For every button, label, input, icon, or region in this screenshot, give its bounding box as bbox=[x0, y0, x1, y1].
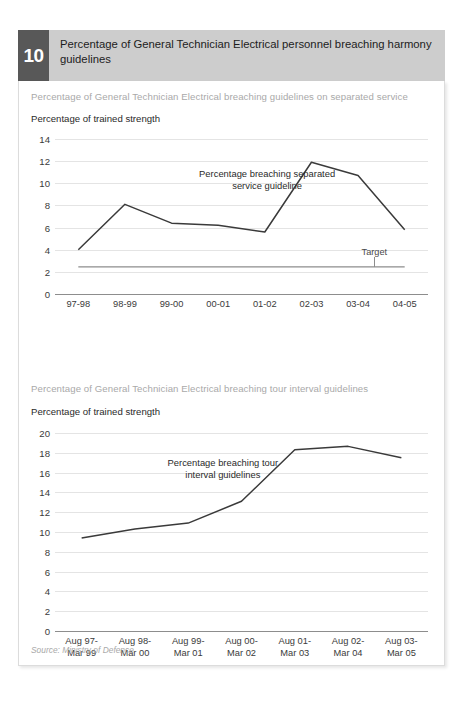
annotation-line-1: Percentage breaching tour bbox=[168, 457, 279, 469]
y-axis-tick-label: 16 bbox=[39, 467, 50, 478]
figure-number-badge: 10 bbox=[18, 30, 49, 81]
figure-title: Percentage of General Technician Electri… bbox=[49, 30, 445, 81]
figure-header: 10 Percentage of General Technician Elec… bbox=[18, 30, 445, 81]
chart-2: 02468101214161820Aug 97-Mar 99Aug 98-Mar… bbox=[19, 81, 446, 666]
x-axis-tick-label: Aug 02-Mar 04 bbox=[332, 636, 365, 659]
y-axis-tick-label: 8 bbox=[45, 546, 50, 557]
annotation-line-2: interval guidelines bbox=[168, 469, 279, 481]
y-axis-tick-label: 20 bbox=[39, 428, 50, 439]
x-axis-tick-label: Aug 00-Mar 02 bbox=[225, 636, 258, 659]
y-axis-tick-label: 10 bbox=[39, 527, 50, 538]
figure-container: 10 Percentage of General Technician Elec… bbox=[18, 30, 445, 666]
source-note: Source: Ministry of Defence bbox=[31, 645, 134, 655]
y-axis-tick-label: 4 bbox=[45, 586, 50, 597]
figure-panel: Percentage of General Technician Electri… bbox=[18, 81, 445, 666]
y-axis-tick-label: 0 bbox=[45, 626, 50, 637]
chart-2-plot-area: 02468101214161820Aug 97-Mar 99Aug 98-Mar… bbox=[55, 433, 428, 631]
y-axis-tick-label: 6 bbox=[45, 566, 50, 577]
x-axis-tick-label: Aug 01-Mar 03 bbox=[279, 636, 312, 659]
y-axis-tick-label: 2 bbox=[45, 606, 50, 617]
y-axis-tick-label: 18 bbox=[39, 447, 50, 458]
x-axis-tick-label: Aug 99-Mar 01 bbox=[172, 636, 205, 659]
y-axis-tick-label: 12 bbox=[39, 507, 50, 518]
x-axis-line bbox=[55, 631, 428, 632]
chart-2-series-annotation: Percentage breaching tourinterval guidel… bbox=[168, 457, 279, 482]
x-axis-tick-label: Aug 03-Mar 05 bbox=[385, 636, 418, 659]
y-axis-tick-label: 14 bbox=[39, 487, 50, 498]
